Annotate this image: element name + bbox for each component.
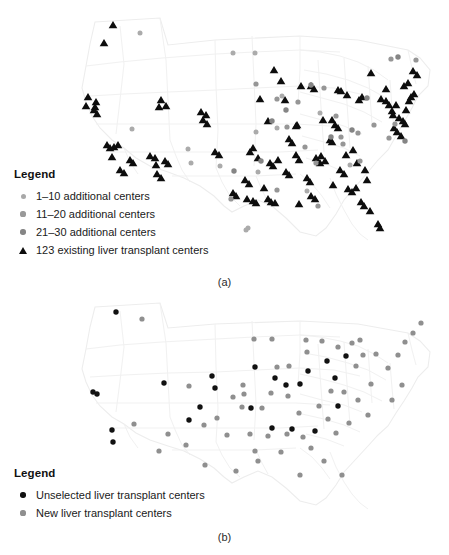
legend-a-title: Legend [14, 168, 208, 180]
data-point [404, 79, 413, 86]
data-point [368, 381, 373, 386]
legend-item-label: 123 existing liver transplant centers [36, 244, 208, 256]
data-point [240, 382, 245, 387]
data-point [100, 39, 109, 46]
data-point [253, 81, 258, 86]
data-point [165, 431, 170, 436]
data-point [283, 107, 288, 112]
data-point [315, 203, 320, 208]
data-point [402, 339, 407, 344]
data-point [243, 195, 252, 202]
data-point [297, 472, 302, 477]
data-point [308, 82, 313, 87]
legend-item: New liver transplant centers [14, 504, 205, 522]
legend-item: Unselected liver transplant centers [14, 486, 205, 504]
data-point [183, 442, 188, 447]
data-point [318, 111, 323, 116]
data-point [321, 458, 326, 463]
data-point [113, 309, 118, 314]
data-point [239, 404, 244, 409]
data-point [357, 337, 362, 342]
data-point [328, 388, 333, 393]
data-point [274, 156, 283, 163]
data-point [256, 170, 261, 175]
data-point [285, 393, 290, 398]
data-point [355, 397, 360, 402]
data-point [355, 130, 360, 135]
data-point [357, 158, 362, 163]
data-point [389, 397, 394, 402]
circle-glyph [20, 510, 25, 515]
data-points-b [90, 309, 423, 477]
data-point [277, 77, 286, 84]
data-point [365, 412, 370, 417]
data-point [186, 383, 191, 388]
data-point [269, 425, 274, 430]
data-point [296, 410, 301, 415]
figure-root: Legend 1–10 additional centers11–20 addi… [0, 0, 449, 555]
data-point [284, 431, 289, 436]
data-point [230, 394, 235, 399]
data-point [201, 422, 206, 427]
data-point [130, 127, 135, 132]
data-point [303, 337, 308, 342]
data-point [131, 421, 136, 426]
data-point [138, 31, 143, 36]
data-point [247, 431, 252, 436]
data-point [254, 130, 259, 135]
data-point [371, 122, 376, 127]
data-point [324, 358, 329, 363]
panel-a: Legend 1–10 additional centers11–20 addi… [0, 0, 449, 295]
data-point [353, 363, 358, 368]
data-point [328, 134, 333, 139]
legend-item-label: 11–20 additional centers [36, 208, 155, 220]
data-point [157, 96, 166, 103]
data-point [269, 118, 274, 123]
legend-a: Legend 1–10 additional centers11–20 addi… [14, 168, 208, 259]
circle-glyph [20, 211, 25, 216]
legend-item-label: Unselected liver transplant centers [36, 489, 205, 501]
data-point [338, 134, 343, 139]
legend-item: 11–20 additional centers [14, 205, 208, 223]
circle-icon [14, 194, 32, 199]
data-point [109, 21, 118, 28]
data-point [312, 428, 317, 433]
data-point [409, 67, 418, 74]
data-point [297, 381, 302, 386]
data-point [361, 166, 370, 173]
data-point [352, 184, 361, 191]
data-point [392, 101, 401, 108]
data-point [300, 434, 305, 439]
data-point [269, 336, 274, 341]
data-point [241, 391, 246, 396]
data-point [258, 158, 263, 163]
data-point [214, 415, 219, 420]
legend-item: 21–30 additional centers [14, 223, 208, 241]
data-point [418, 320, 423, 325]
data-point [231, 168, 236, 173]
legend-item-label: 1–10 additional centers [36, 190, 150, 202]
data-point [92, 98, 101, 105]
data-point [388, 56, 393, 61]
data-point [399, 382, 404, 387]
data-point [386, 135, 391, 140]
data-point [319, 338, 324, 343]
data-point [197, 108, 206, 115]
data-point [161, 380, 166, 385]
data-point [346, 420, 351, 425]
legend-item-label: New liver transplant centers [36, 507, 172, 519]
data-point [410, 330, 415, 335]
data-point [255, 458, 260, 463]
data-point [402, 138, 407, 143]
data-point [274, 364, 279, 369]
circle-glyph [20, 492, 25, 497]
data-point [248, 405, 253, 410]
data-point [340, 141, 345, 146]
data-point [82, 102, 91, 109]
legend-item: 1–10 additional centers [14, 187, 208, 205]
legend-b-title: Legend [14, 467, 205, 479]
data-point [224, 432, 229, 437]
circle-glyph [21, 194, 26, 199]
legend-item: 123 existing liver transplant centers [14, 241, 208, 259]
panel-b-sublabel: (b) [0, 531, 449, 543]
